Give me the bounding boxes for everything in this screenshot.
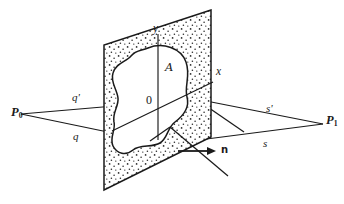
label-ray-s-prime: s' — [266, 103, 273, 114]
label-normal-vector: n — [221, 145, 228, 155]
geometry-figure: P0 P1 q' q s' s y x 0 A n — [0, 0, 344, 204]
label-aperture-region: A — [165, 62, 173, 74]
label-axis-x: x — [216, 66, 221, 78]
label-field-point: P1 — [326, 114, 338, 127]
figure-canvas — [0, 0, 344, 204]
label-axis-y: y — [153, 23, 158, 35]
label-ray-q: q — [73, 131, 79, 142]
label-ray-s: s — [263, 138, 267, 149]
label-source-point: P0 — [11, 106, 23, 119]
label-origin: 0 — [146, 94, 152, 106]
label-ray-q-prime: q' — [72, 92, 80, 103]
